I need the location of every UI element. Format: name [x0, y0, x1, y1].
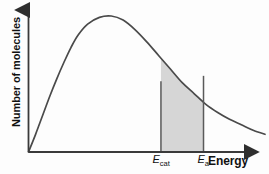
ea-symbol: E — [198, 153, 205, 165]
ecat-subscript: cat — [160, 159, 170, 168]
shaded-area-between-ecat-and-ea — [29, 16, 266, 152]
plot-canvas — [0, 0, 269, 174]
maxwell-boltzmann-distribution-figure: Number of molecules Energy Ecat Ea — [0, 0, 269, 174]
ecat-axis-label: Ecat — [152, 153, 169, 168]
distribution-curve-group — [29, 16, 266, 152]
x-axis-title: Energy — [208, 154, 248, 168]
axes-group — [29, 10, 259, 152]
ea-axis-label: Ea — [198, 153, 210, 168]
maxwell-boltzmann-curve — [29, 16, 266, 152]
shaded-area-group — [29, 16, 266, 152]
ecat-symbol: E — [152, 153, 159, 165]
ea-subscript: a — [205, 159, 209, 168]
y-axis-title: Number of molecules — [10, 13, 22, 131]
